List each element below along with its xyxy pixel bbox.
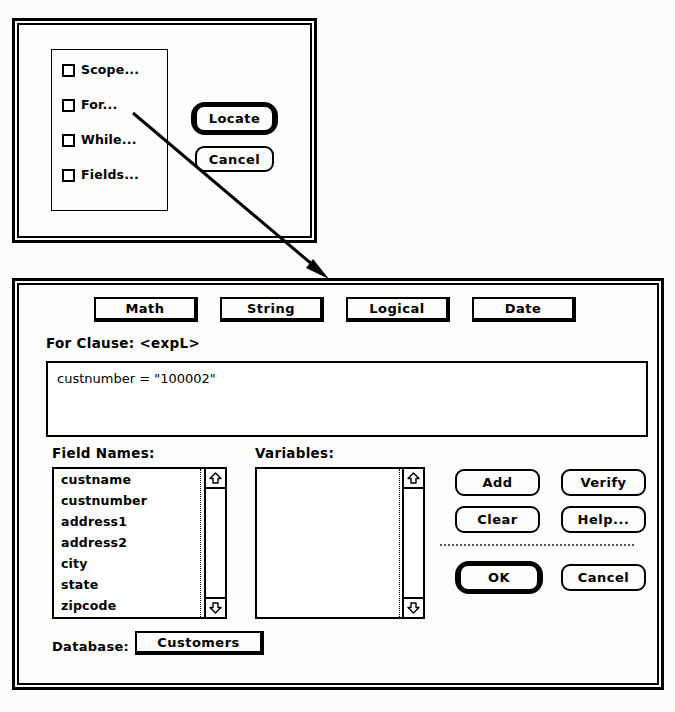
list-item-name: custname [54, 472, 201, 487]
expression-input[interactable]: custnumber = "100002" [46, 361, 648, 437]
checkbox-row-for[interactable]: For... [62, 97, 117, 113]
variables-scroll-track[interactable] [404, 489, 423, 597]
variables-list[interactable] [255, 467, 425, 619]
expression-cancel-button[interactable]: Cancel [561, 564, 646, 591]
scroll-up-arrow-icon[interactable] [206, 469, 225, 489]
checkbox-for-label: For... [81, 99, 117, 112]
scroll-down-arrow-icon[interactable] [206, 597, 225, 617]
screenshot-canvas: Scope... For... While... Fields... Locat… [0, 0, 675, 712]
field-names-scroll-track[interactable] [206, 489, 225, 597]
checkbox-for-icon[interactable] [62, 99, 75, 112]
expression-builder-window: Math String Logical Date For Clause: <ex… [12, 278, 664, 690]
checkbox-scope-icon[interactable] [62, 64, 75, 77]
list-item-name: zipcode [54, 598, 201, 613]
scroll-up-arrow-icon[interactable] [404, 469, 423, 489]
locate-button[interactable]: Locate [195, 105, 274, 132]
checkbox-fields-icon[interactable] [62, 169, 75, 182]
list-item-name: address1 [54, 514, 201, 529]
database-popup-button[interactable]: Customers [135, 631, 264, 655]
field-names-column-divider [200, 469, 201, 617]
variables-label: Variables: [255, 447, 334, 461]
verify-button[interactable]: Verify [561, 469, 646, 496]
for-clause-label: For Clause: <expL> [46, 337, 200, 351]
locate-options-group: Scope... For... While... Fields... [51, 49, 168, 211]
category-button-logical[interactable]: Logical [346, 297, 450, 322]
checkbox-row-scope[interactable]: Scope... [62, 62, 139, 78]
help-button[interactable]: Help... [561, 506, 646, 533]
checkbox-while-label: While... [81, 134, 137, 147]
list-item-name: custnumber [54, 493, 201, 508]
checkbox-while-icon[interactable] [62, 134, 75, 147]
field-names-label: Field Names: [52, 447, 155, 461]
checkbox-fields-label: Fields... [81, 169, 139, 182]
list-item-name: state [54, 577, 201, 592]
checkbox-row-while[interactable]: While... [62, 132, 137, 148]
category-button-string[interactable]: String [220, 297, 324, 322]
variables-scrollbar[interactable] [402, 469, 423, 617]
checkbox-scope-label: Scope... [81, 64, 139, 77]
locate-dialog-window: Scope... For... While... Fields... Locat… [12, 18, 317, 243]
field-names-scrollbar[interactable] [204, 469, 225, 617]
database-label: Database: [52, 640, 129, 653]
clear-button[interactable]: Clear [455, 506, 540, 533]
variables-column-divider [399, 469, 400, 617]
category-button-date[interactable]: Date [472, 297, 576, 322]
scroll-down-arrow-icon[interactable] [404, 597, 423, 617]
add-button[interactable]: Add [455, 469, 540, 496]
locate-cancel-button[interactable]: Cancel [195, 146, 274, 172]
category-button-math[interactable]: Math [94, 297, 198, 322]
field-names-list[interactable]: custnameCcustnumberCaddress1Caddress2Cci… [52, 467, 227, 619]
button-panel-divider [440, 544, 634, 546]
ok-button[interactable]: OK [459, 564, 539, 591]
checkbox-row-fields[interactable]: Fields... [62, 167, 139, 183]
list-item-name: city [54, 556, 201, 571]
list-item-name: address2 [54, 535, 201, 550]
